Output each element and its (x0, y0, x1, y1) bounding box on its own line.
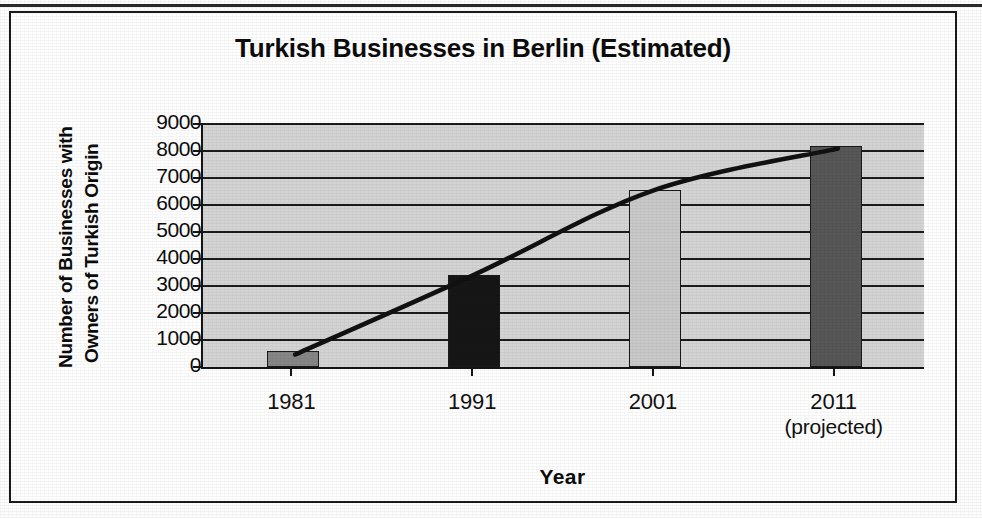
bar-2011 (810, 146, 862, 367)
x-tick-year: 1981 (267, 389, 315, 414)
y-axis-tick-label: 5000 (125, 218, 201, 242)
bar-1991 (448, 275, 500, 367)
x-axis-line: 1981199120012011(projected) (201, 367, 924, 369)
x-tick-sublabel: (projected) (754, 414, 914, 439)
y-axis-tick-label: 2000 (125, 299, 201, 323)
x-axis-tick-mark (652, 367, 654, 376)
bar-1981 (267, 351, 319, 367)
chart-title: Turkish Businesses in Berlin (Estimated) (11, 33, 955, 64)
y-axis-tick-label: 3000 (125, 272, 201, 296)
x-tick-year: 1991 (448, 389, 496, 414)
x-axis-tick-mark (290, 367, 292, 376)
chart-frame: Turkish Businesses in Berlin (Estimated)… (9, 11, 957, 503)
plot-inner (203, 124, 924, 367)
x-axis-tick-mark (833, 367, 835, 376)
y-axis-title-line-2: Owners of Turkish Origin (81, 144, 103, 363)
y-axis-tick-group: 9000800070006000500040003000200010000 (117, 124, 201, 367)
x-axis-tick-label-1991: 1991 (392, 389, 552, 414)
x-tick-year: 2011 (810, 389, 857, 414)
gridline (203, 123, 924, 125)
y-axis-tick-label: 0 (125, 353, 201, 377)
plot-area (201, 124, 924, 367)
x-axis-tick-label-1981: 1981 (211, 389, 371, 414)
y-axis-tick-label: 9000 (125, 110, 201, 134)
x-axis-tick-label-2011: 2011(projected) (754, 389, 914, 439)
x-axis-tick-mark (471, 367, 473, 376)
y-axis-tick-label: 7000 (125, 164, 201, 188)
y-axis-tick-label: 4000 (125, 245, 201, 269)
scan-edge-rule (0, 4, 982, 7)
y-axis-tick-label: 8000 (125, 137, 201, 161)
x-axis-tick-label-2001: 2001 (573, 389, 733, 414)
y-axis-tick-label: 6000 (125, 191, 201, 215)
x-tick-year: 2001 (629, 389, 677, 414)
bar-2001 (629, 190, 681, 367)
y-axis-title-line-1: Number of Businesses with (55, 126, 77, 368)
y-axis-tick-label: 1000 (125, 326, 201, 350)
x-axis-title: Year (201, 465, 924, 489)
